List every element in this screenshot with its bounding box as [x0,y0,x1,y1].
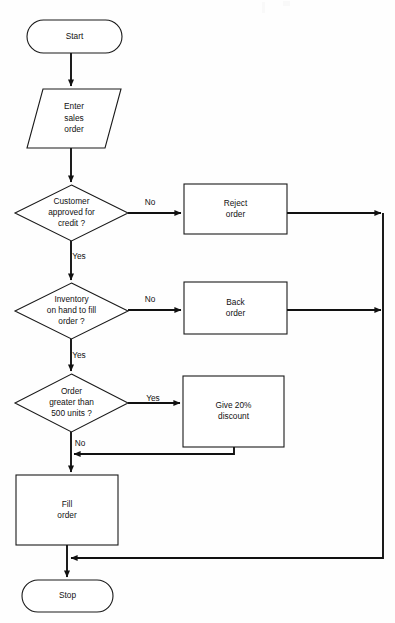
node-label: order [226,209,246,219]
node-label: on hand to fill [47,305,97,315]
node-back-order[interactable]: Backorder [184,282,287,334]
node-label: credit ? [58,218,86,228]
node-start[interactable]: Start [27,20,122,53]
node-label: Order [61,386,82,396]
node-stop[interactable]: Stop [22,580,113,612]
node-label: Start [66,31,84,41]
node-label: Stop [59,590,76,600]
edge-label-inventory-no: No [145,294,156,304]
node-label: Fill [62,499,73,509]
node-label: discount [218,411,250,421]
connector-discount-to-merge [74,447,234,454]
edge-label-order-yes: Yes [146,393,160,403]
node-label: approved for [48,207,95,217]
node-label: order [226,308,246,318]
node-label: Customer [54,196,90,206]
node-label: Enter [64,101,84,111]
node-label: Reject [224,198,248,208]
node-label: order ? [58,316,85,326]
node-enter-sales-order[interactable]: Entersalesorder [27,89,121,148]
node-label: 500 units ? [51,408,92,418]
flowchart-canvas: StartEntersalesorderCustomerapproved for… [0,0,395,623]
node-label: Inventory [54,294,89,304]
node-label: greater than [49,397,94,407]
node-customer-approved-for-credit[interactable]: Customerapproved forcredit ? [15,185,128,241]
edge-label-credit-yes: Yes [72,251,86,261]
node-label: sales [64,113,83,123]
flowchart-shapes: StartEntersalesorderCustomerapproved for… [15,20,287,612]
edge-label-inventory-yes: Yes [72,350,86,360]
node-label: Back [226,297,245,307]
node-inventory-on-hand[interactable]: Inventoryon hand to fillorder ? [15,283,128,339]
node-reject-order[interactable]: Rejectorder [184,184,287,234]
node-fill-order[interactable]: Fillorder [16,475,118,545]
edge-label-order-no: No [75,438,86,448]
node-label: Give 20% [216,400,253,410]
flowchart-svg: StartEntersalesorderCustomerapproved for… [0,0,395,623]
node-order-greater-than-500[interactable]: Ordergreater than500 units ? [15,374,128,432]
node-give-20-percent-discount[interactable]: Give 20%discount [183,376,284,447]
node-label: order [57,510,77,520]
node-label: order [64,124,84,134]
edge-label-credit-no: No [145,197,156,207]
